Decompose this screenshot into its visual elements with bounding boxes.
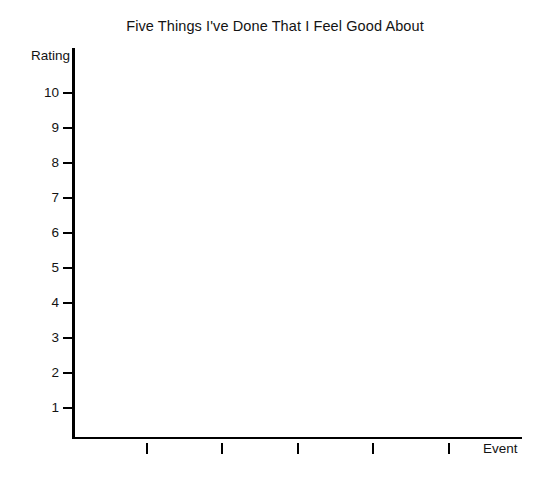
y-axis-tick-mark: [63, 267, 73, 269]
x-axis-line: [72, 437, 522, 439]
x-axis-tick-mark: [221, 443, 223, 454]
y-axis-tick-mark: [63, 197, 73, 199]
y-axis-title: Rating: [18, 48, 70, 64]
chart-worksheet: Five Things I've Done That I Feel Good A…: [0, 0, 550, 483]
y-axis-tick-label: 4: [14, 295, 59, 311]
y-axis-tick-label: 2: [14, 365, 59, 381]
y-axis-tick-mark: [63, 127, 73, 129]
y-axis-tick-label: 5: [14, 260, 59, 276]
y-axis-line: [72, 48, 75, 439]
chart-title: Five Things I've Done That I Feel Good A…: [0, 18, 550, 34]
plot-area[interactable]: [75, 48, 522, 437]
y-axis-tick-mark: [63, 232, 73, 234]
x-axis-tick-mark: [297, 443, 299, 454]
y-axis-tick-label: 6: [14, 225, 59, 241]
x-axis-title: Event: [483, 441, 518, 457]
x-axis-tick-mark: [372, 443, 374, 454]
y-axis-tick-mark: [63, 302, 73, 304]
y-axis-tick-mark: [63, 92, 73, 94]
x-axis-tick-mark: [146, 443, 148, 454]
y-axis-tick-label: 8: [14, 155, 59, 171]
y-axis-tick-label: 10: [14, 85, 59, 101]
y-axis-tick-mark: [63, 337, 73, 339]
y-axis-tick-label: 1: [14, 400, 59, 416]
y-axis-tick-label: 9: [14, 120, 59, 136]
y-axis-tick-mark: [63, 372, 73, 374]
y-axis-tick-mark: [63, 162, 73, 164]
x-axis-tick-mark: [448, 443, 450, 454]
y-axis-tick-label: 7: [14, 190, 59, 206]
y-axis-tick-label: 3: [14, 330, 59, 346]
y-axis-tick-mark: [63, 407, 73, 409]
